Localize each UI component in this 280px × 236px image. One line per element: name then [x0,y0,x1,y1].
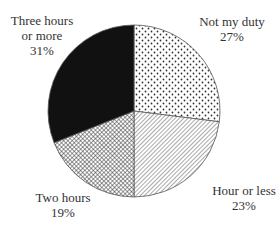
pie-slice-hour-or-less [134,111,219,197]
label-not-my-duty-pct: 27% [199,29,265,44]
label-three-hours-or-more: Three hours or more 31% [11,13,73,58]
label-three-hours-line2: or more [11,28,73,43]
label-two-hours-pct: 19% [35,205,90,220]
label-hour-or-less-line1: Hour or less [212,183,276,198]
label-two-hours-line1: Two hours [35,190,90,205]
label-two-hours: Two hours 19% [35,190,90,220]
pie-chart: Three hours or more 31% Not my duty 27% … [0,0,280,236]
label-hour-or-less: Hour or less 23% [212,183,276,213]
label-three-hours-pct: 31% [11,43,73,58]
label-hour-or-less-pct: 23% [212,198,276,213]
label-not-my-duty-line1: Not my duty [199,14,265,29]
label-three-hours-line1: Three hours [11,13,73,28]
pie-slices [48,25,220,197]
label-not-my-duty: Not my duty 27% [199,14,265,44]
